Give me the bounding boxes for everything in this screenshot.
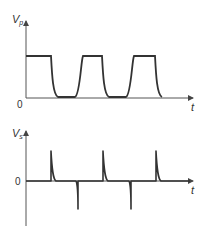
vs-label: Vs [12, 127, 23, 140]
waveform-diagram: Vp 0 t Vs 0 t [0, 0, 203, 231]
primary-voltage-plot: Vp 0 t [12, 13, 195, 113]
secondary-voltage-plot: Vs 0 t [12, 127, 195, 226]
vp-waveform [26, 56, 162, 97]
vs-origin-label: 0 [15, 176, 21, 187]
vs-t-label: t [191, 184, 195, 196]
vp-label: Vp [12, 13, 23, 27]
vp-origin-label: 0 [17, 99, 23, 110]
vs-waveform [26, 151, 190, 209]
vp-t-label: t [191, 101, 195, 113]
